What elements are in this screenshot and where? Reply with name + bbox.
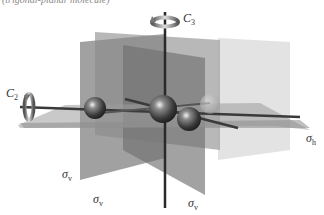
sigma-v-label-3: σv [188,197,198,212]
ligand-atom-back [200,94,220,114]
sigma-h-label: σh [306,132,316,147]
ligand-atom-front [177,107,201,131]
sigma-v-label-1: σv [62,168,72,183]
sigma-v-plane-back [218,38,290,160]
molecule-3d-illustration [0,0,324,215]
c3-label: C3 [183,12,195,27]
sigma-v-label-2: σv [93,193,103,208]
central-atom [149,95,177,123]
symmetry-diagram: (trigonal-planar molecule) [0,0,324,215]
ligand-atom-left [84,97,106,119]
c2-label: C2 [6,87,18,102]
